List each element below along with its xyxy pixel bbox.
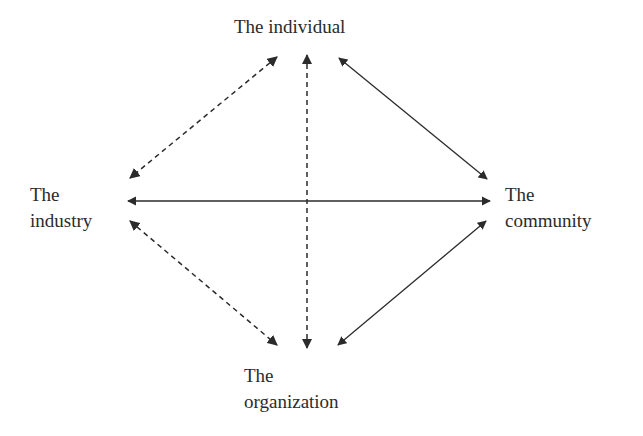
- edge-community-organization: [338, 221, 486, 345]
- node-community: The community: [505, 182, 592, 234]
- node-individual: The individual: [234, 14, 345, 40]
- node-organization: The organization: [244, 363, 339, 415]
- node-organization-line2: organization: [244, 389, 339, 415]
- node-industry: The industry: [30, 182, 92, 234]
- edge-individual-industry: [130, 57, 277, 178]
- node-community-line1: The: [505, 182, 592, 208]
- node-individual-label: The individual: [234, 14, 345, 40]
- edge-individual-community: [339, 58, 487, 179]
- edge-industry-organization: [130, 221, 277, 345]
- node-industry-line1: The: [30, 182, 92, 208]
- node-industry-line2: industry: [30, 208, 92, 234]
- node-organization-line1: The: [244, 363, 339, 389]
- node-community-line2: community: [505, 208, 592, 234]
